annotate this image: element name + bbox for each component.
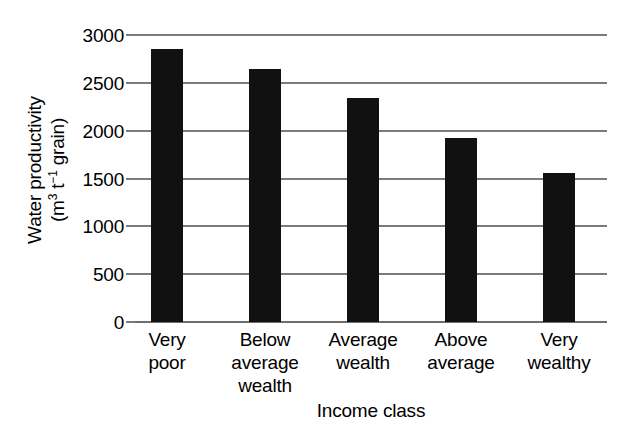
x-axis-tick-label-line: Very <box>499 328 619 351</box>
y-axis-title-line1: Water productivity <box>23 96 46 244</box>
bar[interactable] <box>445 138 477 322</box>
x-axis-tick-label-line: wealthy <box>499 351 619 374</box>
plot-area <box>135 35 607 322</box>
y-axis-tick-label: 2000 <box>56 121 124 140</box>
y-axis-tick-label: 500 <box>56 265 124 284</box>
x-axis-title: Income class <box>135 400 607 422</box>
y-axis-tick-label: 1500 <box>56 169 124 188</box>
x-axis-tick-label-line: wealth <box>205 374 325 397</box>
y-axis-tick-mark <box>126 225 135 227</box>
y-axis-tick-label: 3000 <box>56 26 124 45</box>
y-axis-tick-mark <box>126 82 135 84</box>
gridline <box>135 34 607 36</box>
bar[interactable] <box>151 49 183 322</box>
bar[interactable] <box>249 69 281 322</box>
x-axis-tick-label: Verywealthy <box>499 328 619 374</box>
bar-chart-figure: Water productivity (m3 t−1 grain) 050010… <box>0 0 637 440</box>
y-axis-tick-labels: 050010001500200025003000 <box>56 0 124 440</box>
y-axis-tick-mark <box>126 34 135 36</box>
bar[interactable] <box>543 173 575 322</box>
y-axis-tick-mark <box>126 178 135 180</box>
y-axis-tick-mark <box>126 273 135 275</box>
y-axis-tick-label: 2500 <box>56 73 124 92</box>
bar[interactable] <box>347 98 379 322</box>
y-axis-tick-mark <box>126 321 135 323</box>
gridline <box>135 82 607 84</box>
y-axis-tick-mark <box>126 130 135 132</box>
x-axis-tick-labels: VerypoorBelowaveragewealthAveragewealthA… <box>135 328 607 398</box>
y-axis-tick-label: 1000 <box>56 217 124 236</box>
